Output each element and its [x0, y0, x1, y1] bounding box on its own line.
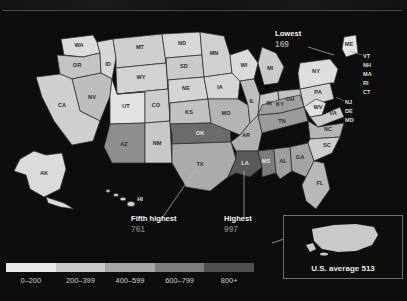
state-label-CA: CA — [58, 102, 66, 108]
legend-swatch-0 — [6, 263, 56, 272]
state-label-IN: IN — [266, 100, 272, 106]
state-label-IA: IA — [217, 84, 223, 90]
state-label-ND: ND — [178, 40, 186, 46]
state-NY[interactable] — [298, 59, 338, 89]
map-figure: WA OR ID MT ND MN WI MI NY ME WY SD IA N… — [0, 0, 407, 301]
state-HI[interactable] — [106, 190, 135, 207]
edge-label-RI: RI — [363, 80, 369, 86]
state-TX[interactable] — [172, 142, 236, 191]
state-label-MO: MO — [221, 110, 231, 116]
inset-us-shape — [304, 221, 382, 257]
state-label-AK: AK — [40, 170, 48, 176]
legend-labels: 0–200 200–399 400–599 600–799 800+ — [6, 276, 254, 285]
callout-fifth-highest-title: Fifth highest — [131, 214, 177, 224]
state-label-PA: PA — [314, 89, 321, 95]
state-label-GA: GA — [296, 154, 304, 160]
state-label-WI: WI — [241, 62, 248, 68]
legend-swatch-2 — [105, 263, 155, 272]
callout-highest-title: Highest — [224, 214, 252, 224]
edge-label-MD: MD — [345, 117, 354, 123]
state-label-HI: HI — [137, 196, 143, 202]
callout-fifth-highest-value: 761 — [131, 224, 177, 235]
state-label-TX: TX — [196, 161, 203, 167]
state-SC[interactable] — [308, 137, 340, 161]
state-label-MT: MT — [136, 44, 145, 50]
state-label-MI: MI — [267, 65, 274, 71]
state-label-ID: ID — [105, 61, 111, 67]
state-label-VA: VA — [329, 110, 336, 116]
legend-swatch-1 — [56, 263, 106, 272]
legend-color-bar — [6, 263, 254, 272]
state-label-LA: LA — [241, 160, 248, 166]
us-average-inset: U.S. average 513 — [283, 215, 403, 279]
state-label-NC: NC — [324, 126, 332, 132]
callout-lowest-title: Lowest — [275, 29, 301, 39]
edge-label-CT: CT — [363, 89, 371, 95]
edge-label-MA: MA — [363, 71, 372, 77]
edge-label-VT: VT — [363, 53, 371, 59]
state-label-SD: SD — [180, 63, 188, 69]
legend-label-1: 200–399 — [56, 276, 106, 285]
callout-highest-value: 997 — [224, 224, 252, 235]
state-label-NE: NE — [182, 85, 190, 91]
state-label-WY: WY — [136, 74, 145, 80]
state-label-FL: FL — [317, 180, 324, 186]
edge-label-DE: DE — [345, 108, 353, 114]
callout-fifth-highest: Fifth highest 761 — [131, 214, 177, 235]
state-label-ME: ME — [345, 41, 354, 47]
state-label-KS: KS — [185, 109, 193, 115]
state-label-NV: NV — [88, 94, 96, 100]
state-label-WV: WV — [313, 104, 322, 110]
state-label-TN: TN — [278, 118, 285, 124]
inset-caption: U.S. average 513 — [284, 264, 402, 273]
legend-swatch-4 — [204, 263, 254, 272]
callout-highest: Highest 997 — [224, 214, 252, 235]
leader-midatlantic — [336, 97, 344, 101]
state-label-UT: UT — [122, 103, 130, 109]
state-label-AR: AR — [242, 132, 250, 138]
state-label-OR: OR — [73, 62, 81, 68]
callout-lowest-value: 169 — [275, 39, 301, 50]
callout-lowest: Lowest 169 — [275, 29, 301, 50]
state-label-MN: MN — [210, 50, 219, 56]
state-label-KY: KY — [276, 101, 284, 107]
legend-label-0: 0–200 — [6, 276, 56, 285]
state-label-NM: NM — [153, 140, 162, 146]
state-label-AZ: AZ — [120, 141, 128, 147]
top-noise-strip — [0, 0, 407, 9]
state-label-NY: NY — [312, 68, 320, 74]
state-label-CO: CO — [152, 102, 161, 108]
state-label-IL: IL — [250, 98, 256, 104]
leader-lowest — [308, 47, 334, 55]
state-label-SC: SC — [323, 142, 331, 148]
legend-label-2: 400–599 — [105, 276, 155, 285]
legend-label-3: 600–799 — [155, 276, 205, 285]
state-label-OK: OK — [196, 130, 204, 136]
state-AK-tail[interactable] — [46, 197, 74, 209]
edge-label-NJ: NJ — [345, 99, 352, 105]
state-label-MS: MS — [262, 158, 271, 164]
state-label-AL: AL — [279, 158, 287, 164]
state-label-OH: OH — [286, 96, 294, 102]
legend: 0–200 200–399 400–599 600–799 800+ — [6, 263, 254, 285]
legend-swatch-3 — [155, 263, 205, 272]
state-label-WA: WA — [74, 42, 83, 48]
state-MT[interactable] — [113, 34, 166, 68]
edge-label-NH: NH — [363, 62, 371, 68]
legend-label-4: 800+ — [204, 276, 254, 285]
